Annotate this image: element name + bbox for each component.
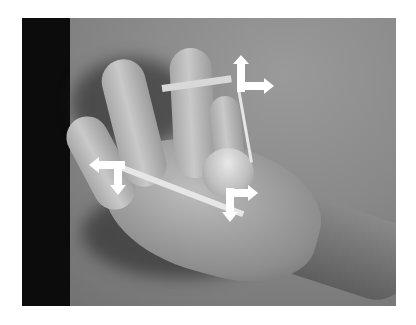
- hand-photo: [22, 18, 396, 306]
- arrow-down-icon: [110, 161, 126, 195]
- arrow-right-icon: [226, 185, 258, 201]
- dark-edge: [22, 18, 70, 306]
- arrow-right-icon: [237, 78, 274, 94]
